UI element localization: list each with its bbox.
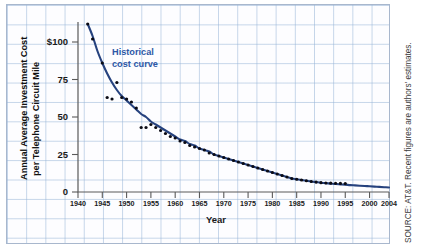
x-tick-label: 1955 [143, 199, 159, 208]
data-point [208, 151, 211, 154]
annotation-historical-line2: cost curve [112, 59, 158, 69]
data-point [276, 172, 279, 175]
source-note: SOURCE: AT&T. Recent figures are authors… [404, 42, 413, 243]
x-tick-label: 2004 [381, 199, 397, 208]
data-point [232, 159, 235, 162]
data-point [203, 148, 206, 151]
data-point [193, 145, 196, 148]
data-point [149, 123, 152, 126]
y-tick-label: $100 [47, 36, 68, 47]
data-point [135, 106, 138, 109]
x-axis-title: Year [206, 214, 226, 225]
x-tick-label: 1940 [70, 199, 86, 208]
data-point [130, 100, 133, 103]
data-point [256, 166, 259, 169]
data-point [183, 141, 186, 144]
x-tick-label: 2000 [362, 199, 378, 208]
y-tick-label: 0 [63, 186, 68, 197]
data-point [266, 169, 269, 172]
figure-root: 0255075$100 1940194519501955196019651970… [0, 0, 424, 248]
data-point [125, 97, 128, 100]
data-point [91, 37, 94, 40]
x-tick-label: 1995 [337, 199, 353, 208]
data-point [280, 174, 283, 177]
y-axis-title-line2: per Telephone Circuit Mile [31, 62, 41, 176]
data-point [110, 97, 113, 100]
x-axis-ticks: 1940194519501955196019651970197519801985… [70, 192, 397, 208]
data-point [329, 182, 332, 185]
data-point [237, 160, 240, 163]
data-point [344, 182, 347, 185]
x-tick-label: 1990 [313, 199, 329, 208]
data-point [154, 126, 157, 129]
data-point [169, 135, 172, 138]
data-point [198, 147, 201, 150]
data-point [246, 163, 249, 166]
x-tick-label: 1985 [289, 199, 305, 208]
x-tick-label: 1960 [167, 199, 183, 208]
data-point [305, 179, 308, 182]
data-point [334, 182, 337, 185]
data-point [315, 181, 318, 184]
data-point [310, 180, 313, 183]
data-point [295, 178, 298, 181]
data-point [319, 181, 322, 184]
data-point [86, 22, 89, 25]
data-point [212, 153, 215, 156]
data-point [324, 181, 327, 184]
x-tick-label: 1945 [94, 199, 110, 208]
data-point [140, 126, 143, 129]
data-point [227, 157, 230, 160]
y-axis-ticks: 0255075$100 [47, 36, 78, 197]
data-point [159, 129, 162, 132]
data-point [164, 132, 167, 135]
y-axis-title-line1: Annual Average Investment Cost [19, 37, 29, 180]
data-point [101, 61, 104, 64]
y-tick-label: 50 [57, 111, 68, 122]
data-point [174, 136, 177, 139]
data-point [106, 96, 109, 99]
data-point [144, 126, 147, 129]
y-tick-label: 75 [57, 74, 68, 85]
x-tick-label: 1975 [240, 199, 256, 208]
x-tick-label: 1980 [264, 199, 280, 208]
data-point [188, 144, 191, 147]
data-point [178, 139, 181, 142]
chart-canvas: 0255075$100 1940194519501955196019651970… [0, 0, 424, 248]
data-point [120, 96, 123, 99]
data-point [217, 154, 220, 157]
data-point [290, 177, 293, 180]
data-point [285, 175, 288, 178]
data-point [115, 81, 118, 84]
data-point [261, 168, 264, 171]
x-tick-label: 1970 [216, 199, 232, 208]
x-tick-label: 1965 [191, 199, 207, 208]
data-point [251, 165, 254, 168]
data-point [300, 178, 303, 181]
y-tick-label: 25 [57, 149, 68, 160]
data-point [339, 182, 342, 185]
data-point [271, 171, 274, 174]
x-tick-label: 1950 [119, 199, 135, 208]
annotation-historical-line1: Historical [112, 47, 154, 57]
data-point [242, 162, 245, 165]
data-point [222, 156, 225, 159]
